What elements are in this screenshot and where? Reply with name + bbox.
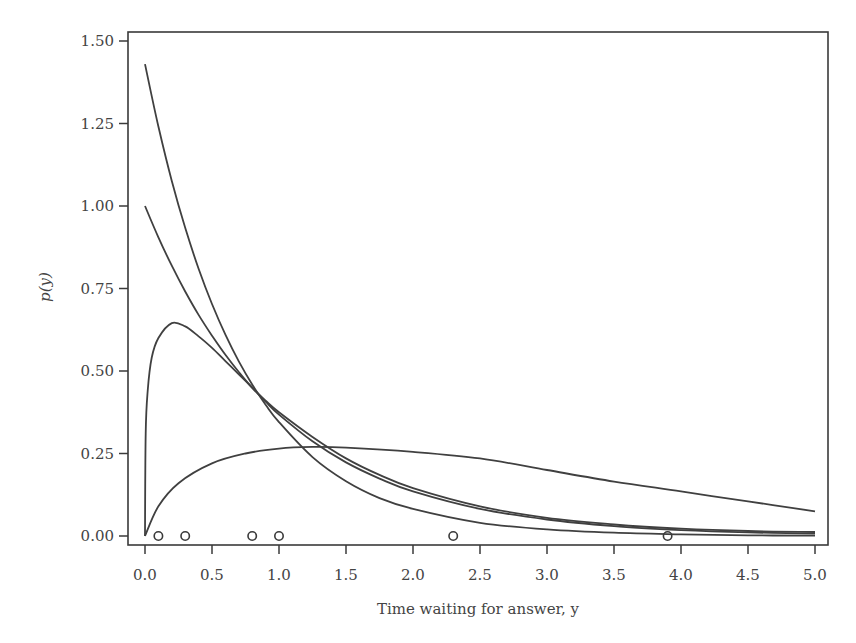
y-tick-label: 0.25 (81, 445, 114, 463)
density-chart: 0.000.250.500.751.001.251.50 0.00.51.01.… (0, 0, 856, 643)
observation-marker (275, 532, 283, 540)
x-tick-label: 2.5 (468, 566, 492, 584)
x-tick-label: 2.0 (401, 566, 425, 584)
x-tick-label: 0.0 (133, 566, 157, 584)
density-curve-density-3 (145, 323, 815, 536)
x-tick-label: 5.0 (803, 566, 827, 584)
observation-marker (181, 532, 189, 540)
x-tick-label: 4.0 (669, 566, 693, 584)
observation-marker (663, 532, 671, 540)
density-curve-density-2 (145, 206, 815, 534)
observation-marker (248, 532, 256, 540)
x-tick-label: 1.5 (334, 566, 358, 584)
x-axis-title: Time waiting for answer, y (377, 600, 580, 618)
x-axis: 0.00.51.01.52.02.53.03.54.04.55.0 (133, 545, 827, 584)
y-tick-label: 0.00 (81, 527, 114, 545)
observation-points (154, 532, 672, 540)
density-curve-density-1 (145, 64, 815, 536)
y-tick-label: 1.00 (81, 197, 114, 215)
y-tick-label: 0.75 (81, 280, 114, 298)
observation-marker (449, 532, 457, 540)
x-tick-label: 3.5 (602, 566, 626, 584)
y-tick-label: 0.50 (81, 362, 114, 380)
x-tick-label: 0.5 (200, 566, 224, 584)
y-axis-title: p(y) (36, 272, 54, 302)
density-curves (145, 64, 815, 536)
x-tick-label: 1.0 (267, 566, 291, 584)
x-tick-label: 4.5 (736, 566, 760, 584)
plot-frame (128, 32, 828, 545)
observation-marker (154, 532, 162, 540)
x-tick-label: 3.0 (535, 566, 559, 584)
y-axis: 0.000.250.500.751.001.251.50 (81, 32, 128, 545)
y-tick-label: 1.25 (81, 115, 114, 133)
y-tick-label: 1.50 (81, 32, 114, 50)
